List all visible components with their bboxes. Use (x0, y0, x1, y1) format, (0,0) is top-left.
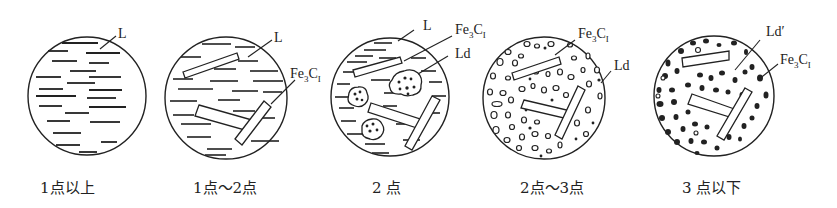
label-Fe3CI-panel2: Fe3CI (290, 66, 321, 84)
caption-panel-4: 2点～3点 (520, 176, 584, 197)
label-Ldprime-panel5: Ld′ (766, 24, 785, 39)
label-L-panel2: L (274, 30, 283, 45)
label-Ld-panel4: Ld (614, 58, 630, 73)
label-L-panel3: L (423, 18, 432, 33)
panel-3-eutectic (331, 30, 452, 156)
label-Fe3CI-panel4: Fe3CI (578, 26, 609, 44)
caption-panel-3: 2 点 (372, 176, 401, 197)
caption-panel-5: 3 点以下 (682, 176, 741, 197)
panel-4-ledeburite (483, 37, 611, 159)
panel-2-liquid-cementite (165, 37, 295, 159)
label-Ld-panel3: Ld (455, 46, 471, 61)
label-Fe3CI-panel3: Fe3CI (455, 22, 486, 40)
caption-panel-2: 1点～2点 (193, 176, 257, 197)
caption-panel-1: 1点以上 (40, 176, 95, 197)
panel-5-transformed-ledeburite (654, 36, 778, 156)
label-Fe3CI-panel5: Fe3CI (780, 52, 811, 70)
label-L-panel1: L (118, 26, 127, 41)
panel-1-liquid (28, 36, 146, 155)
